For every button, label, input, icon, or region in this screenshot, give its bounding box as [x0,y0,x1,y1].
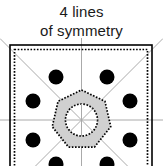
dot-top-left [49,70,64,85]
dot-upper-left [26,94,41,109]
dot-lower-left [26,133,41,148]
symmetry-figure: 4 lines of symmetry [0,0,163,166]
dot-bottom-right [100,157,115,167]
dot-top-right [100,70,115,85]
symmetry-diagram [0,0,163,166]
dot-bottom-left [49,157,64,167]
dot-upper-right [123,94,138,109]
dot-lower-right [123,133,138,148]
